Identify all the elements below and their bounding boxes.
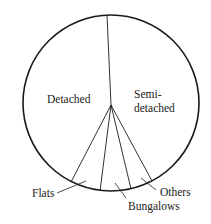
label-others: Others: [160, 186, 191, 198]
boundary-others-semi: [111, 105, 152, 181]
leader-flats: [57, 181, 86, 193]
boundary-detached-semi: [107, 15, 111, 105]
label-detached: Detached: [47, 93, 91, 105]
label-flats: Flats: [32, 187, 55, 199]
pie-chart: Detached Semi- detached Flats Bungalows …: [0, 0, 211, 224]
boundary-detached-flats: [71, 105, 111, 182]
label-bungalows: Bungalows: [128, 200, 180, 213]
label-semi-line1: Semi-: [134, 88, 162, 100]
label-semi-line2: detached: [134, 102, 175, 114]
boundary-bungalows-others: [111, 105, 131, 189]
boundary-flats-bungalows: [100, 105, 111, 191]
